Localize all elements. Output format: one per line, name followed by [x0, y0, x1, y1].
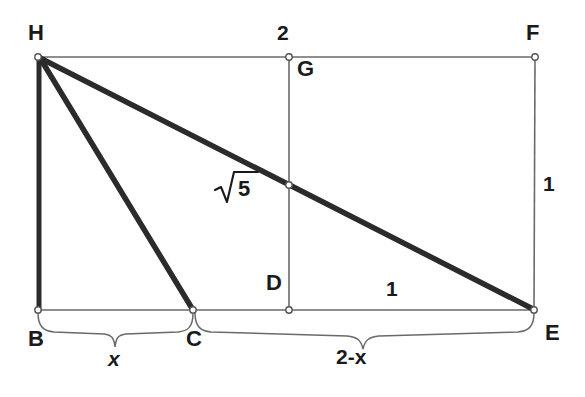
point-marker-F: [532, 54, 538, 60]
geometry-figure: H G F B C D E 2 1 1 x 2-x 5: [0, 0, 585, 397]
dimension-braces: [38, 313, 534, 349]
geometry-canvas: [0, 0, 585, 397]
point-label-D: D: [266, 272, 282, 294]
point-marker-G: [286, 54, 292, 60]
brace-label-2-minus-x: 2-x: [336, 346, 366, 367]
point-label-F: F: [526, 22, 539, 44]
measure-label-right: 1: [543, 173, 555, 194]
measure-label-top: 2: [277, 22, 289, 43]
segment-FE: [534, 57, 535, 310]
point-marker-D: [286, 307, 292, 313]
point-label-G: G: [297, 58, 314, 80]
point-label-E: E: [545, 322, 560, 344]
point-label-B: B: [28, 328, 44, 350]
point-marker-H: [35, 54, 41, 60]
measure-label-bottom-right: 1: [386, 278, 398, 299]
point-label-H: H: [28, 22, 44, 44]
point-marker-E: [531, 307, 537, 313]
brace-2-minus-x: [195, 313, 534, 349]
radical-sign-icon: 5: [214, 166, 260, 204]
radicand-value: 5: [238, 176, 250, 201]
point-marker-B: [35, 307, 41, 313]
point-marker-intersection: [286, 182, 292, 188]
point-marker-C: [190, 307, 196, 313]
measure-label-hypotenuse-sqrt5: 5: [214, 166, 260, 204]
brace-label-x: x: [108, 348, 120, 369]
point-label-C: C: [186, 328, 202, 350]
brace-x: [38, 313, 193, 347]
